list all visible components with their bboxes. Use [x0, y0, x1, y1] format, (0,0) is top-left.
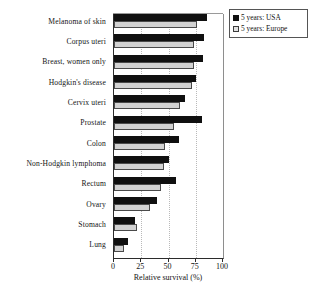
legend-swatch-europe-icon	[233, 26, 239, 32]
bar-group	[114, 14, 223, 28]
bar-group	[114, 197, 223, 211]
x-tick-label: 0	[111, 262, 115, 272]
plot-area	[113, 14, 224, 259]
x-tick-label: 50	[164, 262, 172, 272]
category-label: Ovary	[0, 200, 106, 209]
bar-europe	[114, 102, 180, 109]
legend-label-europe: 5 years: Europe	[241, 24, 287, 33]
x-tick-label: 75	[191, 262, 199, 272]
category-label: Breast, women only	[0, 57, 106, 66]
category-label: Hodgkin's disease	[0, 78, 106, 87]
bar-usa	[114, 217, 135, 224]
bar-group	[114, 238, 223, 252]
bar-group	[114, 136, 223, 150]
bar-group	[114, 177, 223, 191]
x-axis-ticks: 0255075100	[113, 259, 223, 273]
bar-europe	[114, 82, 192, 89]
bar-usa	[114, 136, 179, 143]
category-label: Lung	[0, 240, 106, 249]
bar-europe	[114, 21, 197, 28]
legend-item-usa: 5 years: USA	[233, 12, 304, 23]
legend-label-usa: 5 years: USA	[241, 13, 281, 22]
category-label: Rectum	[0, 179, 106, 188]
category-label: Colon	[0, 139, 106, 148]
chart-legend: 5 years: USA 5 years: Europe	[229, 9, 308, 38]
bar-group	[114, 75, 223, 89]
x-tick-label: 100	[216, 262, 228, 272]
bar-group	[114, 55, 223, 69]
relative-survival-bar-chart: Melanoma of skinCorpus uteriBreast, wome…	[0, 0, 312, 297]
bar-group	[114, 95, 223, 109]
legend-item-europe: 5 years: Europe	[233, 23, 304, 34]
category-label: Stomach	[0, 220, 106, 229]
bar-europe	[114, 143, 165, 150]
bar-europe	[114, 163, 164, 170]
bar-usa	[114, 14, 207, 21]
category-axis-labels: Melanoma of skinCorpus uteriBreast, wome…	[0, 14, 110, 258]
bar-usa	[114, 156, 169, 163]
bar-usa	[114, 34, 204, 41]
category-label: Melanoma of skin	[0, 17, 106, 26]
bar-europe	[114, 204, 150, 211]
bar-usa	[114, 75, 196, 82]
bar-europe	[114, 184, 161, 191]
x-tick-label: 25	[136, 262, 144, 272]
bar-usa	[114, 197, 157, 204]
bar-usa	[114, 177, 176, 184]
bar-europe	[114, 62, 194, 69]
bar-usa	[114, 55, 203, 62]
bar-europe	[114, 224, 137, 231]
bar-group	[114, 217, 223, 231]
category-label: Cervix uteri	[0, 98, 106, 107]
category-label: Non-Hodgkin lymphoma	[0, 159, 106, 168]
bar-europe	[114, 123, 174, 130]
bar-group	[114, 156, 223, 170]
x-axis-title: Relative survival (%)	[113, 273, 223, 283]
bar-europe	[114, 41, 194, 48]
bar-usa	[114, 95, 185, 102]
bar-usa	[114, 238, 128, 245]
category-label: Corpus uteri	[0, 37, 106, 46]
bar-group	[114, 116, 223, 130]
bar-europe	[114, 245, 124, 252]
category-label: Prostate	[0, 118, 106, 127]
bar-group	[114, 34, 223, 48]
bar-usa	[114, 116, 202, 123]
legend-swatch-usa-icon	[233, 15, 239, 21]
